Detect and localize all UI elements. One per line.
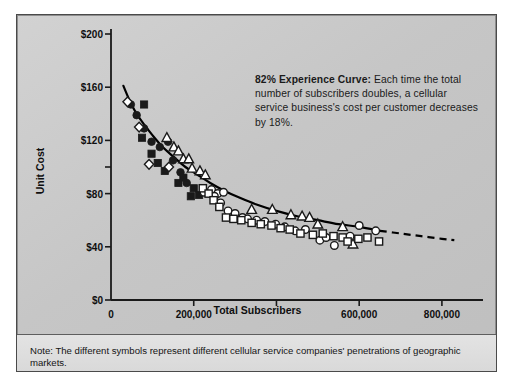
x-axis-title: Total Subscribers <box>17 304 498 316</box>
data-point-open-square <box>216 203 223 210</box>
data-point-open-triangle <box>305 212 315 221</box>
y-tick-label: $160 <box>59 82 103 93</box>
data-point-open-triangle <box>162 133 172 142</box>
data-point-open-diamond <box>144 160 153 170</box>
data-point-filled-square <box>180 174 187 181</box>
data-point-filled-circle <box>148 138 156 146</box>
note-region: Note: The different symbols represent di… <box>17 335 496 371</box>
data-point-open-square <box>355 235 362 242</box>
data-point-open-square <box>248 219 255 226</box>
y-axis-title: Unit Cost <box>34 121 46 221</box>
data-point-open-square <box>319 230 326 237</box>
data-point-filled-square <box>190 185 197 192</box>
data-point-open-triangle <box>247 204 257 213</box>
data-point-filled-circle <box>133 111 141 119</box>
data-point-open-square <box>297 230 304 237</box>
data-point-filled-square <box>138 134 145 141</box>
callout-lead: 82% Experience Curve: <box>255 74 371 85</box>
data-point-filled-square <box>140 101 147 108</box>
data-point-open-circle <box>355 222 363 230</box>
data-point-open-triangle <box>187 163 197 172</box>
data-point-open-square <box>277 225 284 232</box>
data-point-open-square <box>375 238 382 245</box>
data-point-filled-square <box>148 150 155 157</box>
data-point-filled-square <box>187 193 194 200</box>
data-point-open-square <box>222 214 229 221</box>
y-tick-label: $120 <box>59 135 103 146</box>
data-point-filled-circle <box>156 143 164 151</box>
y-tick-label: $40 <box>59 241 103 252</box>
y-tick-label: $80 <box>59 188 103 199</box>
experience-curve-callout: 82% Experience Curve: Each time the tota… <box>255 73 483 130</box>
y-tick-label: $200 <box>59 29 103 40</box>
figure-note: Note: The different symbols represent di… <box>30 345 472 370</box>
data-point-open-square <box>257 221 264 228</box>
chart-region: $0$40$80$120$160$2000200,000600,000800,0… <box>17 15 496 334</box>
data-point-open-circle <box>331 242 339 250</box>
fit-curve-dashed-extension <box>380 231 454 240</box>
data-point-open-circle <box>372 227 380 235</box>
data-point-open-square <box>286 226 293 233</box>
data-point-open-square <box>268 222 275 229</box>
figure-frame: $0$40$80$120$160$2000200,000600,000800,0… <box>16 14 497 372</box>
data-point-open-square <box>330 233 337 240</box>
data-point-open-square <box>238 217 245 224</box>
data-point-filled-square <box>154 159 161 166</box>
data-point-open-square <box>230 215 237 222</box>
data-point-open-square <box>309 231 316 238</box>
data-point-open-circle <box>220 188 228 196</box>
experience-curve-chart <box>17 15 498 334</box>
data-point-open-square <box>364 234 371 241</box>
data-point-open-square <box>344 238 351 245</box>
